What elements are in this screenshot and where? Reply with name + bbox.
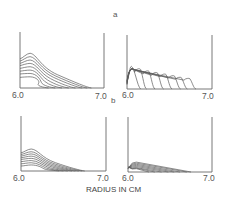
x-tick-max: 7.0	[202, 91, 214, 101]
axis-frame	[127, 35, 212, 89]
chart-b-left: 6.0 7.0	[13, 116, 109, 183]
panel-label-b: b	[111, 96, 116, 105]
profile-curve	[20, 70, 62, 88]
chart-a-left: 6.0 7.0	[12, 32, 107, 101]
x-tick-max: 7.0	[203, 173, 215, 183]
chart-a-right: 6.0 7.0	[122, 35, 214, 101]
profile-curve	[21, 149, 85, 171]
profile-curve	[20, 77, 49, 88]
curves	[128, 162, 191, 172]
x-tick-max: 7.0	[95, 91, 107, 101]
figure: a b 6.0 7.0 6.0 7.0 6.0 7.0 6.0 7.0 RADI…	[0, 0, 231, 201]
curves	[127, 66, 196, 89]
axis-frame	[20, 32, 104, 88]
x-axis-label: RADIUS IN CM	[86, 185, 141, 194]
panel-label-a: a	[113, 10, 118, 19]
x-tick-min: 6.0	[12, 90, 24, 100]
profile-curve	[20, 53, 91, 88]
curves	[21, 149, 85, 171]
x-tick-min: 6.0	[122, 173, 134, 183]
profile-curve	[20, 60, 82, 88]
x-tick-max: 7.0	[97, 173, 109, 183]
curves	[20, 53, 91, 88]
x-tick-min: 6.0	[13, 173, 25, 183]
chart-b-right: 6.0 7.0	[122, 117, 215, 183]
x-tick-min: 6.0	[122, 90, 134, 100]
